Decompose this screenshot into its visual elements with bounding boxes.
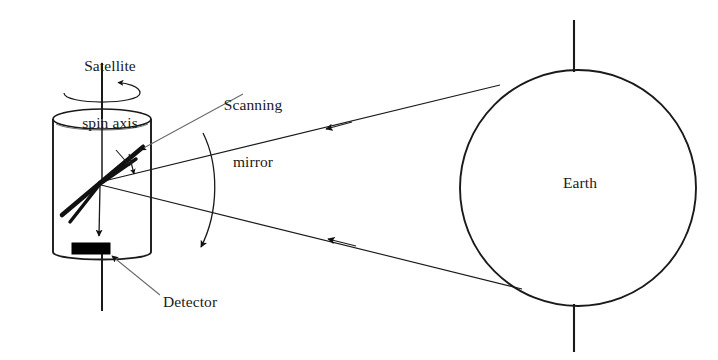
scan-sweep-arc [201,133,215,247]
upper-line-of-sight [100,85,500,182]
label-satellite-spin-axis-line1: Satellite [82,56,138,75]
detector-leader [112,256,160,295]
label-satellite-spin-axis-line2: spin axis [82,113,138,132]
upper-line-of-sight-arrowhead [326,122,352,129]
scan-sweep-group [201,133,215,247]
diagram-canvas: Satellite spin axis Scanning mirror Dete… [0,0,718,360]
detector-beam-arrow [99,186,100,236]
label-satellite-spin-axis: Satellite spin axis [82,18,138,170]
label-scanning-mirror-line1: Scanning [224,95,283,114]
label-scanning-mirror-line2: mirror [224,152,283,171]
lines-of-sight-group [100,85,522,289]
label-scanning-mirror: Scanning mirror [224,57,283,209]
lower-line-of-sight [101,185,522,289]
detector-block [72,243,110,254]
label-detector: Detector [163,292,217,311]
label-earth: Earth [563,173,597,192]
